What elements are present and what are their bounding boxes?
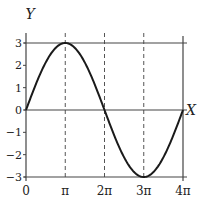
x-tick-label: 0 [22,184,30,198]
x-axis-label: X [185,102,197,118]
y-tick-label: −3 [6,171,22,184]
y-tick-label: 1 [15,82,22,95]
grid-lines [65,33,144,180]
x-tick-labels: 0π2π3π4π [22,184,191,198]
y-tick-label: 0 [15,104,22,117]
x-tick-label: 3π [136,184,152,198]
y-tick-label: 2 [15,59,22,72]
x-tick-label: π [61,184,69,198]
y-tick-label: −2 [6,149,22,162]
x-tick-label: 2π [97,184,113,198]
y-tick-labels: 3210−1−2−3 [6,37,26,184]
sine-chart: 3210−1−2−3 0π2π3π4π Y X [0,0,210,206]
y-tick-label: 3 [15,37,22,50]
x-tick-label: 4π [175,184,191,198]
y-tick-label: −1 [6,126,22,139]
y-axis-label: Y [25,6,36,22]
